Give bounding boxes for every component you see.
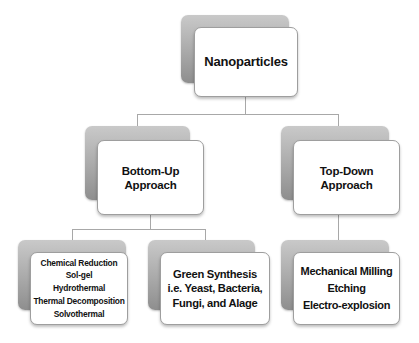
- node-card: Chemical Reduction Sol-gel Hydrothermal …: [30, 252, 128, 325]
- node-label: Nanoparticles: [204, 54, 287, 70]
- connector-root-down: [245, 97, 246, 114]
- connector-to-top-down: [338, 114, 339, 126]
- connector-bottom-up-down: [150, 215, 151, 229]
- node-card: Green Synthesis i.e. Yeast, Bacteria, Fu…: [160, 252, 270, 325]
- method-item: Electro-explosion: [303, 297, 390, 314]
- method-item: Etching: [327, 280, 365, 297]
- connector-level3-left-horizontal: [72, 229, 206, 230]
- node-label-line: Green Synthesis: [173, 267, 257, 282]
- connector-to-chemical: [72, 229, 73, 240]
- method-item: Thermal Decomposition: [33, 295, 124, 308]
- node-label-line: i.e. Yeast, Bacteria,: [168, 281, 263, 296]
- connector-level2-horizontal: [137, 114, 339, 115]
- node-card: Nanoparticles: [194, 27, 298, 97]
- node-label-line: Bottom-Up: [122, 164, 180, 178]
- connector-to-green: [205, 229, 206, 240]
- method-item: Hydrothermal: [53, 282, 105, 295]
- node-label-line: Top-Down: [320, 164, 374, 178]
- connector-to-bottom-up: [137, 114, 138, 126]
- method-item: Sol-gel: [66, 269, 93, 282]
- method-item: Solvothermal: [54, 308, 105, 321]
- node-card: Mechanical Milling Etching Electro-explo…: [293, 252, 400, 325]
- method-item: Chemical Reduction: [41, 257, 118, 270]
- method-item: Mechanical Milling: [301, 263, 393, 280]
- cropped-caption-strip: [0, 0, 419, 4]
- connector-top-down-down: [338, 215, 339, 240]
- node-label-line: Fungi, and Alage: [173, 296, 258, 311]
- node-card: Bottom-Up Approach: [97, 140, 204, 215]
- node-label-line: Approach: [320, 178, 372, 192]
- node-card: Top-Down Approach: [293, 140, 400, 215]
- node-label-line: Approach: [124, 178, 176, 192]
